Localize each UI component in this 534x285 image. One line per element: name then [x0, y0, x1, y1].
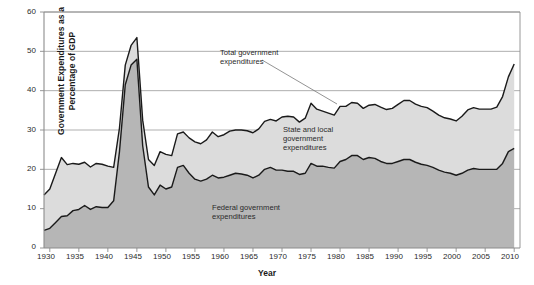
- y-tick-label-20: 20: [14, 164, 36, 173]
- annotation-state-and-local-government-expenditures: State and local government expenditures: [283, 125, 333, 153]
- annotation-federal-line-2: expenditures: [212, 212, 280, 221]
- annotation-leader-line: [262, 60, 337, 104]
- annotation-total-government-expenditures: Total government expenditures: [220, 48, 278, 66]
- y-tick-label-30: 30: [14, 125, 36, 134]
- y-tick-label-40: 40: [14, 85, 36, 94]
- y-axis-title: Government Expenditures as a Percentage …: [56, 6, 78, 136]
- x-tick-label-2010: 2010: [490, 252, 530, 261]
- y-tick-label-0: 0: [14, 242, 36, 251]
- annotation-state-line-1: State and local: [283, 125, 333, 134]
- annotation-total-line-1: Total government: [220, 48, 278, 57]
- chart-plot-area: [0, 0, 534, 285]
- annotation-state-line-2: government: [283, 134, 333, 143]
- y-tick-label-10: 10: [14, 203, 36, 212]
- chart-figure: Government Expenditures as a Percentage …: [0, 0, 534, 285]
- annotation-federal-line-1: Federal government: [212, 203, 280, 212]
- annotation-total-line-2: expenditures: [220, 57, 278, 66]
- x-axis-title: Year: [0, 268, 534, 278]
- y-tick-label-60: 60: [14, 7, 36, 16]
- y-tick-label-50: 50: [14, 46, 36, 55]
- annotation-state-line-3: expenditures: [283, 143, 333, 152]
- annotation-federal-government-expenditures: Federal government expenditures: [212, 203, 280, 221]
